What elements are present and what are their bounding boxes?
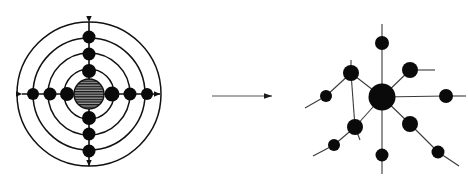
network-nodes-group bbox=[320, 36, 453, 162]
lattice-node-L-e1 bbox=[60, 87, 74, 101]
lattice-node-L-e2 bbox=[44, 88, 57, 101]
figure-canvas bbox=[0, 0, 468, 185]
lattice-node-L-n2 bbox=[83, 48, 96, 61]
network-node-R-n8 bbox=[402, 116, 418, 132]
network-node-R-n3 bbox=[347, 119, 363, 135]
network-node-R-n2 bbox=[320, 90, 332, 102]
edge-R-n1-R-n3 bbox=[351, 73, 355, 127]
figure-root bbox=[0, 0, 468, 185]
network-node-R-n4 bbox=[328, 139, 340, 151]
lattice-node-L-w1 bbox=[105, 87, 120, 102]
lattice-node-L-w2 bbox=[124, 88, 137, 101]
disordered-network-diagram bbox=[305, 24, 466, 174]
lattice-node-L-n1 bbox=[82, 64, 96, 78]
network-node-R-n5 bbox=[375, 36, 389, 50]
hatched-core-group bbox=[74, 79, 104, 109]
lattice-node-L-w3 bbox=[141, 88, 153, 100]
network-hub-node bbox=[369, 84, 396, 111]
network-node-R-n6 bbox=[402, 62, 418, 78]
lattice-node-L-s3 bbox=[83, 145, 96, 158]
ordered-lattice-diagram bbox=[17, 22, 161, 166]
lattice-node-L-s2 bbox=[83, 128, 96, 141]
lattice-node-L-e3 bbox=[27, 88, 39, 100]
network-node-R-n7 bbox=[439, 89, 453, 103]
network-node-R-n9 bbox=[432, 146, 445, 159]
network-node-R-n10 bbox=[376, 149, 389, 162]
lattice-node-L-n3 bbox=[83, 31, 96, 44]
network-node-R-n1 bbox=[343, 65, 359, 81]
lattice-node-L-s1 bbox=[82, 111, 96, 125]
